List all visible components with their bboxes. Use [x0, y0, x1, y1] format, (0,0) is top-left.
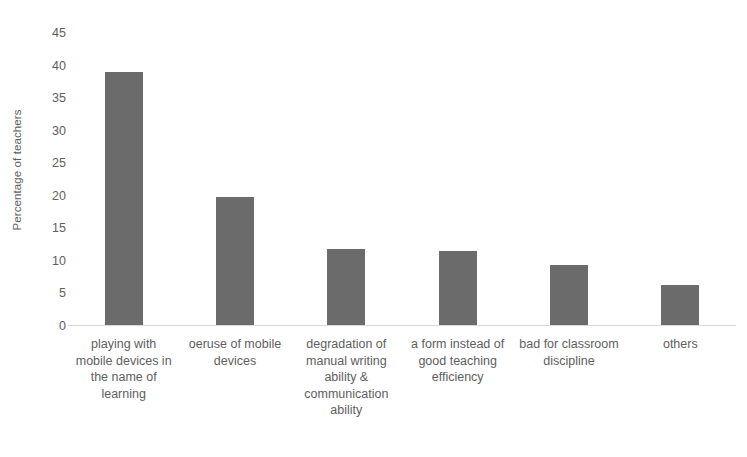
y-axis-tick-label: 30 [36, 124, 66, 137]
x-axis-category-label: bad for classroom discipline [516, 336, 621, 369]
bar [105, 72, 143, 325]
y-axis-tick-label: 0 [36, 320, 66, 333]
x-axis-line [68, 325, 736, 326]
y-axis-tick-label: 45 [36, 27, 66, 40]
x-axis-category-labels: playing with mobile devices in the name … [68, 336, 736, 451]
x-axis-category-label: degradation of manual writing ability & … [294, 336, 399, 419]
y-axis-title-label: Percentage of teachers [11, 109, 23, 230]
bar [439, 251, 477, 325]
x-axis-category-label: a form instead of good teaching efficien… [405, 336, 510, 386]
bar-chart: Percentage of teachers 45403530252015105… [0, 0, 747, 457]
plot-area [68, 33, 736, 326]
bar [661, 285, 699, 325]
y-axis-tick-label: 25 [36, 157, 66, 170]
y-axis-tick-labels: 454035302520151050 [36, 26, 66, 332]
bar [216, 197, 254, 325]
y-axis-title: Percentage of teachers [0, 0, 34, 340]
y-axis-tick-label: 20 [36, 190, 66, 203]
bar [550, 265, 588, 325]
y-axis-tick-label: 10 [36, 255, 66, 268]
x-axis-category-label: playing with mobile devices in the name … [71, 336, 176, 402]
x-axis-category-label: others [628, 336, 733, 353]
y-axis-tick-label: 35 [36, 92, 66, 105]
y-axis-tick-label: 5 [36, 287, 66, 300]
y-axis-tick-label: 40 [36, 59, 66, 72]
x-axis-category-label: oeruse of mobile devices [182, 336, 287, 369]
y-axis-tick-label: 15 [36, 222, 66, 235]
bar [327, 249, 365, 325]
